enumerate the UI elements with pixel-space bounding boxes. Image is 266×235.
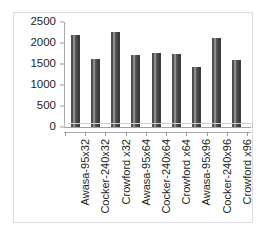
x-axis-category-label: Crowford x32 xyxy=(121,139,132,204)
x-axis-labels: Awasa-95x32Cocker-240x32Crowford x32Awas… xyxy=(65,139,251,231)
x-axis-tick-mark xyxy=(105,132,106,136)
chart-frame: 05001000150020002500 Awasa-95x32Cocker-2… xyxy=(13,12,253,223)
plot-floor-back-edge xyxy=(68,123,251,124)
plot-floor-front-edge xyxy=(65,127,251,128)
bar xyxy=(232,60,241,127)
y-axis: 05001000150020002500 xyxy=(14,22,60,128)
x-axis-category-label: Crowford x64 xyxy=(181,139,192,204)
y-axis-tick-label: 0 xyxy=(50,121,56,133)
y-axis-tick-label: 2500 xyxy=(30,16,56,28)
bar xyxy=(192,67,201,127)
x-axis-category-label: Cocker-240x96 xyxy=(222,139,233,214)
x-axis-category-label: Awasa-95x96 xyxy=(201,139,212,205)
x-axis-tick-mark xyxy=(85,132,86,136)
y-axis-tick-label: 500 xyxy=(37,100,56,112)
x-axis-category-label: Cocker-240x64 xyxy=(161,139,172,214)
y-axis-tick-label: 2000 xyxy=(30,37,56,49)
bar xyxy=(71,35,80,127)
x-axis-tick-mark xyxy=(247,132,248,136)
y-axis-tick-label: 1500 xyxy=(30,58,56,70)
bar xyxy=(91,59,100,127)
x-axis-tick-mark xyxy=(65,132,66,136)
bar xyxy=(212,38,221,127)
x-axis-category-label: Awasa-95x64 xyxy=(141,139,152,205)
plot-area xyxy=(65,22,247,127)
cut-off-title-remnant xyxy=(6,0,126,6)
x-axis-category-label: Cocker-240x32 xyxy=(100,139,111,214)
bar xyxy=(131,55,140,127)
x-axis-tick-mark xyxy=(146,132,147,136)
bar xyxy=(111,32,120,127)
x-axis-tick-mark xyxy=(126,132,127,136)
x-axis-line xyxy=(64,132,251,133)
x-axis-tick-mark xyxy=(227,132,228,136)
x-axis-category-label: Awasa-95x32 xyxy=(80,139,91,205)
x-axis-category-label: Crowford x96 xyxy=(242,139,253,204)
y-axis-tick-label: 1000 xyxy=(30,79,56,91)
x-axis-tick-mark xyxy=(186,132,187,136)
bar xyxy=(152,53,161,127)
bar xyxy=(172,54,181,127)
x-axis-tick-mark xyxy=(207,132,208,136)
x-axis-tick-mark xyxy=(166,132,167,136)
